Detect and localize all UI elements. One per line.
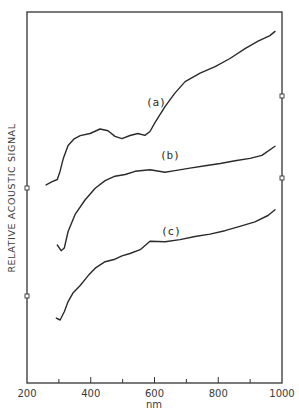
axis-marker [25, 186, 29, 190]
axis-marker [280, 176, 284, 180]
x-tick-label: 1000 [269, 388, 294, 399]
x-axis-ticks [59, 377, 250, 383]
curve-label-b: (b) [160, 149, 180, 162]
axis-marker [25, 294, 29, 298]
x-tick-label: 400 [81, 388, 100, 399]
chart: 2004006008001000 nm RELATIVE ACOUSTIC SI… [0, 0, 299, 415]
curve-label-c: (c) [161, 225, 181, 238]
axis-marker [280, 94, 284, 98]
x-tick-label: 600 [145, 388, 164, 399]
x-axis-title: nm [146, 399, 162, 410]
x-axis-tick-labels: 2004006008001000 [17, 388, 294, 399]
plot-frame [27, 12, 282, 383]
x-tick-label: 200 [17, 388, 36, 399]
x-tick-label: 800 [209, 388, 228, 399]
y-axis-title: RELATIVE ACOUSTIC SIGNAL [6, 123, 17, 272]
curves [46, 31, 275, 320]
curve-label-a: (a) [146, 96, 166, 109]
